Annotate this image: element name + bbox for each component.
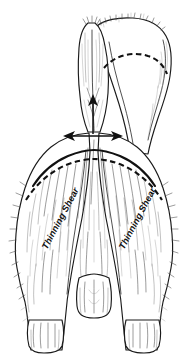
arrows-group [63, 94, 123, 141]
dog-rear-view-illustration: Rear view grooming diagram of a long-coa… [0, 0, 187, 359]
grooming-diagram-figure: Rear view grooming diagram of a long-coa… [0, 0, 187, 359]
right-foot [125, 320, 161, 353]
left-foot [28, 320, 64, 353]
